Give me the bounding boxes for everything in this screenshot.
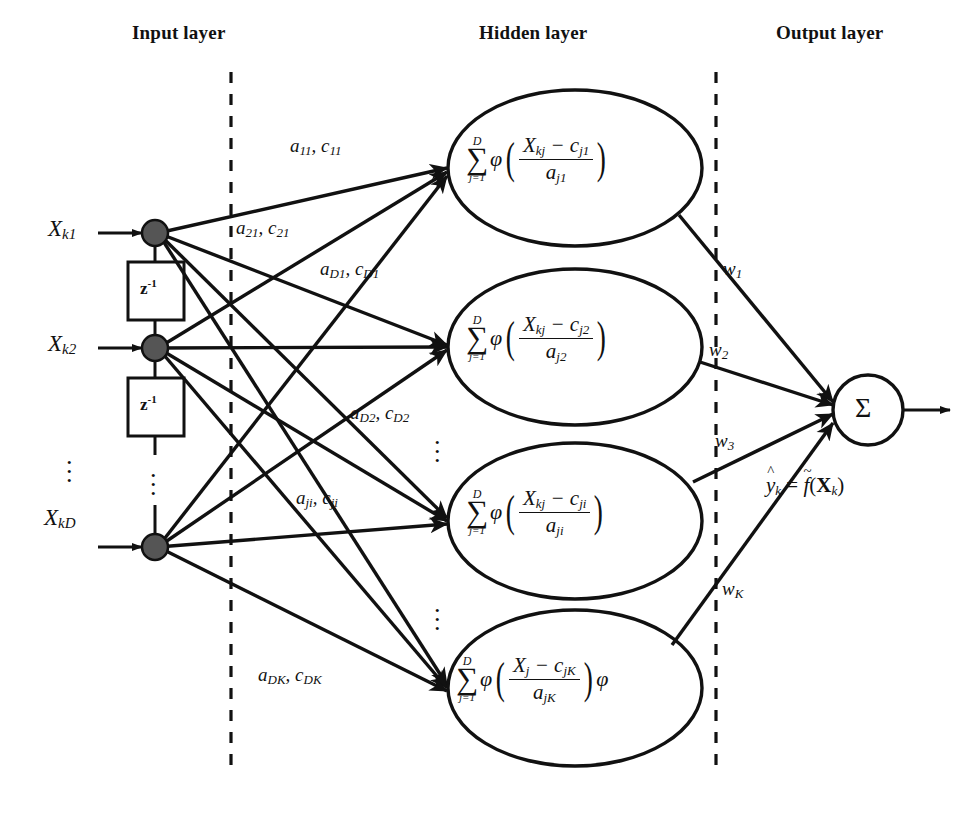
paren-close: ) <box>597 141 606 177</box>
paren-open: ( <box>506 320 515 356</box>
fraction: Xkj − cj2 aj2 <box>519 313 593 363</box>
hidden-node-dots-1: ... <box>434 600 441 627</box>
paren-close: ) <box>597 320 606 356</box>
hidden-formula-3: D ∑ j=1 φ ( Xkj − cji aji ) <box>466 487 608 537</box>
input-node-dots: ... <box>150 465 157 492</box>
paren-close: ) <box>594 494 603 530</box>
summation-symbol: D ∑ j=1 <box>466 135 488 182</box>
output-expression: ^yk = ~f(Xk) <box>766 473 844 499</box>
phi-symbol: φ <box>490 146 502 172</box>
input-node-2 <box>142 335 168 361</box>
weight-label-w3: w3 <box>715 430 734 454</box>
edge-label-a11-c11: a11, c11 <box>290 135 342 159</box>
delay-block-1-label: z-1 <box>140 277 157 299</box>
input-node-1 <box>142 220 168 246</box>
output-sigma-symbol: Σ <box>855 392 871 424</box>
hidden-formula-4: D ∑ j=1 φ ( Xj − cjK ajK ) φ <box>456 654 610 704</box>
input-to-hidden-edges <box>158 168 447 691</box>
fraction: Xkj − cj1 aj1 <box>519 134 593 184</box>
layer-title-input: Input layer <box>132 22 226 44</box>
edge-label-dots: ... <box>434 432 441 459</box>
edge-label-aD2-cD2: aD2, cD2 <box>350 402 409 426</box>
input-label-2: Xk2 <box>48 331 76 358</box>
input-label-3: XkD <box>44 505 76 532</box>
phi-symbol: φ <box>480 666 492 692</box>
input-label-dots: ... <box>66 452 73 479</box>
phi-symbol: φ <box>490 325 502 351</box>
summation-symbol: D ∑ j=1 <box>456 655 478 702</box>
paren-open: ( <box>496 661 505 697</box>
trailing-phi-symbol: φ <box>596 666 608 692</box>
delay-block-2-label: z-1 <box>140 393 157 415</box>
input-label-1: Xk1 <box>48 216 76 243</box>
hidden-formula-2: D ∑ j=1 φ ( Xkj − cj2 aj2 ) <box>466 313 611 363</box>
edge-label-aji-cji: aji, cji <box>296 487 338 511</box>
paren-open: ( <box>506 141 515 177</box>
weight-label-w2: w2 <box>709 339 728 363</box>
input-node-3 <box>142 534 168 560</box>
layer-title-output: Output layer <box>776 22 883 44</box>
paren-open: ( <box>506 494 515 530</box>
hidden-to-output-edges <box>672 215 833 645</box>
edge-label-aD1-cD1: aD1, cD1 <box>320 258 379 282</box>
summation-symbol: D ∑ j=1 <box>466 314 488 361</box>
paren-close: ) <box>583 661 592 697</box>
output-node <box>833 375 950 445</box>
weight-label-w1: w1 <box>723 258 742 282</box>
hidden-formula-1: D ∑ j=1 φ ( Xkj − cj1 aj1 ) <box>466 134 611 184</box>
edge-label-aDK-cDK: aDK, cDK <box>258 664 322 688</box>
layer-title-hidden: Hidden layer <box>479 22 588 44</box>
fraction: Xj − cjK ajK <box>509 654 580 704</box>
fraction: Xkj − cji aji <box>519 487 590 537</box>
diagram-canvas: Input layer Hidden layer Output layer Xk… <box>0 0 958 814</box>
weight-label-wK: wK <box>722 578 743 602</box>
edge-label-a21-c21: a21, c21 <box>236 217 289 241</box>
summation-symbol: D ∑ j=1 <box>466 488 488 535</box>
phi-symbol: φ <box>490 499 502 525</box>
